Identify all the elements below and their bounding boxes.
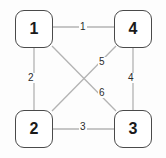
edge-label-2: 2 <box>27 73 35 83</box>
graph-node-4-label: 4 <box>129 21 138 37</box>
edge-label-5: 5 <box>98 57 106 67</box>
edge-label-3: 3 <box>79 122 87 132</box>
edge-label-1: 1 <box>79 22 87 32</box>
graph-diagram: 1 4 2 3 1 2 3 4 5 6 <box>0 0 166 158</box>
edge-label-6: 6 <box>98 88 106 98</box>
graph-node-2-label: 2 <box>30 121 39 137</box>
graph-node-2[interactable]: 2 <box>15 110 53 148</box>
graph-node-3[interactable]: 3 <box>114 110 152 148</box>
graph-node-3-label: 3 <box>129 121 138 137</box>
graph-node-1[interactable]: 1 <box>15 10 53 48</box>
graph-node-1-label: 1 <box>30 21 39 37</box>
graph-node-4[interactable]: 4 <box>114 10 152 48</box>
edge-label-4: 4 <box>127 73 135 83</box>
